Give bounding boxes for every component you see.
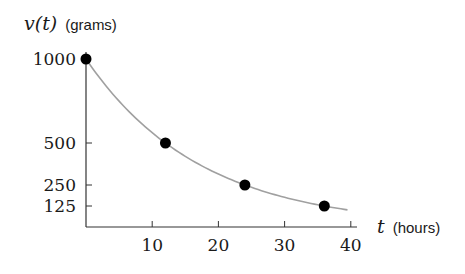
x-tick-label: 20 xyxy=(208,235,230,255)
data-point xyxy=(160,138,171,149)
y-axis-unit: (grams) xyxy=(65,16,117,33)
x-ticks: 10203040 xyxy=(141,221,361,255)
y-tick-label: 250 xyxy=(44,175,76,195)
data-point xyxy=(319,201,330,212)
x-axis-unit: (hours) xyxy=(393,219,441,236)
y-tick-label: 500 xyxy=(44,133,76,153)
x-axis-label: t (hours) xyxy=(377,215,440,237)
y-axis-variable: v(t) xyxy=(24,12,57,34)
y-ticks: 1252505001000 xyxy=(33,49,92,216)
y-axis-label: v(t) (grams) xyxy=(24,12,117,34)
chart: 10203040 1252505001000 v(t) (grams) t (h… xyxy=(0,0,465,274)
data-points xyxy=(81,54,330,212)
y-tick-label: 125 xyxy=(44,196,76,216)
y-tick-label: 1000 xyxy=(33,49,76,69)
x-tick-label: 30 xyxy=(274,235,296,255)
x-tick-label: 10 xyxy=(141,235,163,255)
decay-curve xyxy=(86,59,347,210)
x-axis-variable: t xyxy=(377,215,385,237)
data-point xyxy=(81,54,92,65)
data-point xyxy=(239,180,250,191)
x-tick-label: 40 xyxy=(340,235,362,255)
